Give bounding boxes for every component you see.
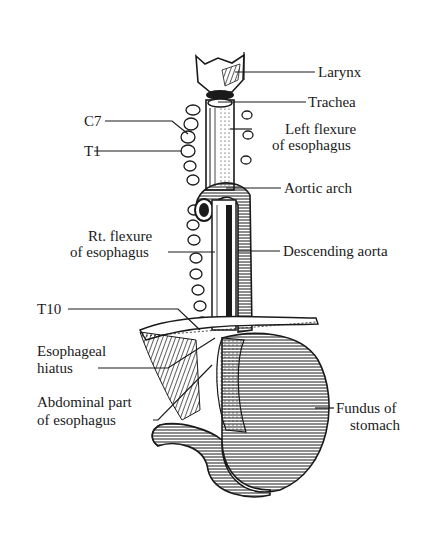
label-descending-aorta: Descending aorta [283,243,388,259]
larynx-shape [196,52,244,100]
label-esophageal-hiatus-1: Esophageal [37,343,106,359]
label-larynx: Larynx [318,64,361,80]
esophagus-column [206,99,234,190]
lower-esophagus [212,200,236,330]
label-fundus-1: Fundus of [336,400,396,416]
label-left-flexure-2: of esophagus [272,137,351,153]
esophagus-illustration [0,0,446,549]
label-rt-flexure-1: Rt. flexure [88,228,152,244]
label-t1: T1 [84,143,101,159]
anatomy-figure: Larynx Trachea C7 T1 Left flexure of eso… [0,0,446,549]
label-aortic-arch: Aortic arch [284,180,352,196]
label-esophageal-hiatus-2: hiatus [37,360,73,376]
label-c7: C7 [84,113,102,129]
label-fundus-2: stomach [350,417,400,433]
label-trachea: Trachea [308,94,356,110]
label-abdominal-part-2: of esophagus [37,412,116,428]
label-abdominal-part-1: Abdominal part [37,394,132,410]
label-rt-flexure-2: of esophagus [70,244,149,260]
label-left-flexure-1: Left flexure [285,121,356,137]
label-t10: T10 [37,301,61,317]
